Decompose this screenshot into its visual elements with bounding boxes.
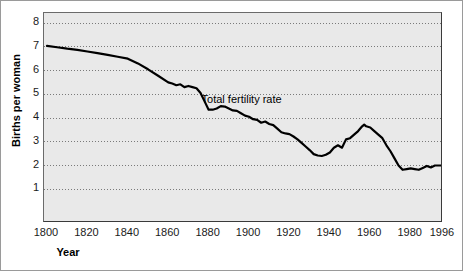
x-tick-label-1960: 1960 [349,226,389,238]
y-axis-title: Births per woman [10,57,22,147]
chart-screenshot: 12345678 1800182018401860188019001920194… [0,0,464,272]
x-tick-label-1900: 1900 [228,226,268,238]
series-annotation-label: Total fertility rate [202,93,282,105]
x-tick-label-1996: 1996 [422,226,462,238]
x-axis-tick-labels: 1800182018401860188019001920194019601980… [0,0,464,272]
x-tick-label-1940: 1940 [309,226,349,238]
x-tick-label-1880: 1880 [188,226,228,238]
x-tick-label-1820: 1820 [66,226,106,238]
x-tick-label-1860: 1860 [147,226,187,238]
x-axis-title: Year [38,246,98,258]
x-tick-label-1800: 1800 [26,226,66,238]
x-tick-label-1920: 1920 [268,226,308,238]
x-tick-label-1840: 1840 [107,226,147,238]
